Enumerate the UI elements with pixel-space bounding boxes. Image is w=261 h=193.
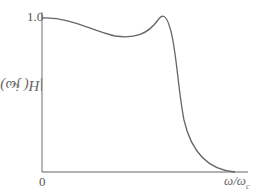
x-axis-label: ω/ωc xyxy=(224,173,250,191)
y-tick-label: 1.0 xyxy=(27,9,43,25)
origin-label: 0 xyxy=(39,174,46,190)
chart-canvas xyxy=(0,0,261,193)
response-curve xyxy=(43,16,235,172)
y-axis-label: |H( jω)|2 xyxy=(6,30,34,140)
